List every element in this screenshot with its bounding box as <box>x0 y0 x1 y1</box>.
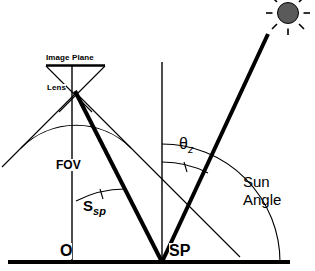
theta-z-tick <box>184 162 187 172</box>
theta-subscript: z <box>188 143 194 155</box>
geometry-figure <box>0 0 315 271</box>
sample-point-label: SP <box>169 243 190 259</box>
sun-to-sp-ray <box>162 34 268 262</box>
diagram-canvas: Image Plane Lens FOV Ssp θz Sun Angle O … <box>0 0 315 271</box>
sun-icon <box>266 0 310 35</box>
sun-angle-line-1: Sun <box>243 173 281 191</box>
sun-angle-line-2: Angle <box>243 191 281 209</box>
lens-to-sp-ray <box>75 91 162 262</box>
origin-label: O <box>60 243 72 259</box>
sun-angle-label: Sun Angle <box>243 173 281 208</box>
fov-label: FOV <box>56 159 81 171</box>
fov-arc <box>21 125 131 148</box>
s-sp-subscript: sp <box>93 205 106 217</box>
s-sp-base: S <box>83 197 93 214</box>
fov-left-ray <box>2 93 76 167</box>
s-sp-label: Ssp <box>83 198 106 217</box>
fov-right-ray <box>76 93 240 257</box>
theta-z-label: θz <box>179 136 193 155</box>
lens-label: Lens <box>47 84 66 92</box>
image-plane-label: Image Plane <box>46 54 94 62</box>
theta-base: θ <box>179 135 188 152</box>
